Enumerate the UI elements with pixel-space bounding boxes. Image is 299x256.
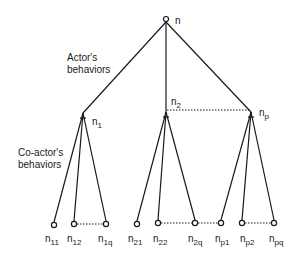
leaf-node-n21 bbox=[134, 221, 139, 226]
label-sub: 21 bbox=[134, 238, 143, 247]
leaf-node-n12 bbox=[71, 221, 76, 226]
label-sub: 1 bbox=[98, 121, 102, 130]
leaf-node-n22 bbox=[155, 220, 160, 225]
actor-label-line1: Actor's bbox=[67, 52, 110, 64]
leaf-label-n12: n12 bbox=[67, 233, 81, 248]
label-sub: 2q bbox=[194, 238, 203, 247]
label-sub: 11 bbox=[51, 238, 59, 247]
edge-n2-n2q bbox=[166, 112, 195, 220]
leaf-node-npq bbox=[271, 220, 276, 225]
coactor-behaviors-label: Co-actor's behaviors bbox=[18, 147, 63, 171]
coactor-label-line2: behaviors bbox=[18, 159, 63, 171]
leaf-node-n2q bbox=[192, 220, 197, 225]
leaf-node-n1q bbox=[103, 221, 108, 226]
edge-np-npq bbox=[251, 112, 274, 220]
label-sub: 22 bbox=[159, 238, 168, 247]
leaf-node-n11 bbox=[51, 222, 56, 227]
leaf-label-n1q: n1q bbox=[98, 233, 112, 248]
node-label-np: np bbox=[259, 107, 269, 122]
leaf-label-n22: n22 bbox=[153, 233, 167, 248]
label-sub: 12 bbox=[73, 238, 82, 247]
leaf-label-np1: np1 bbox=[215, 233, 229, 248]
leaf-label-n11: n11 bbox=[45, 233, 59, 248]
label-sub: 1q bbox=[104, 238, 113, 247]
leaf-label-n21: n21 bbox=[128, 233, 142, 248]
label-sub: pq bbox=[275, 238, 284, 247]
node-label-n1: n1 bbox=[92, 116, 102, 131]
label-sub: 2 bbox=[177, 101, 181, 110]
behavior-tree-diagram bbox=[0, 0, 299, 256]
leaf-label-n2q: n2q bbox=[188, 233, 202, 248]
coactor-label-line1: Co-actor's bbox=[18, 147, 63, 159]
actor-label-line2: behaviors bbox=[67, 64, 110, 76]
node-label-n2: n2 bbox=[171, 96, 181, 111]
leaf-label-npq: npq bbox=[269, 233, 283, 248]
label-sub: p bbox=[265, 112, 269, 121]
root-node bbox=[164, 17, 169, 22]
actor-behaviors-label: Actor's behaviors bbox=[67, 52, 110, 76]
label-sub: p2 bbox=[246, 238, 255, 247]
label-sub: p1 bbox=[221, 238, 230, 247]
leaf-node-np1 bbox=[218, 220, 223, 225]
leaf-node-np2 bbox=[239, 220, 244, 225]
root-label: n bbox=[175, 15, 181, 26]
leaf-label-np2: np2 bbox=[240, 233, 254, 248]
